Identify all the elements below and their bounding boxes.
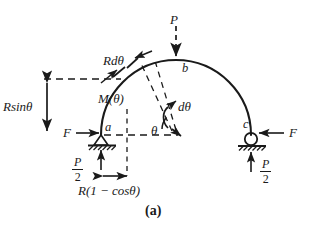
applied-load-label: P	[170, 13, 178, 26]
dtheta-label: dθ	[178, 100, 191, 113]
internal-moment-label: M(θ)	[98, 92, 124, 105]
left-force-label: F	[63, 126, 71, 139]
point-label-c: c	[243, 118, 249, 131]
figure-caption: (a)	[145, 203, 161, 219]
roller-support-right	[238, 133, 266, 151]
horizontal-dimension-label: R(1 − cosθ)	[78, 184, 140, 197]
figure-container: P b a c F F Rdθ M(θ) θ dθ Rsinθ R(1 − co…	[0, 0, 311, 229]
right-reaction-numerator: P	[260, 158, 271, 170]
vertical-dimension-label: Rsinθ	[3, 100, 33, 113]
pin-support-left	[88, 135, 116, 150]
right-reaction-label: P 2	[260, 158, 271, 185]
left-reaction-numerator: P	[72, 156, 83, 168]
point-label-b: b	[182, 62, 188, 75]
arc-element-label: Rdθ	[103, 54, 124, 67]
arch-diagram-svg	[0, 0, 311, 229]
element-radial-dashed-lines	[142, 63, 177, 132]
right-reaction-denominator: 2	[260, 173, 271, 185]
left-reaction-denominator: 2	[72, 171, 83, 183]
point-label-a: a	[105, 121, 111, 134]
left-reaction-label: P 2	[72, 156, 83, 183]
theta-angle-label: θ	[151, 124, 157, 137]
right-force-label: F	[289, 126, 297, 139]
